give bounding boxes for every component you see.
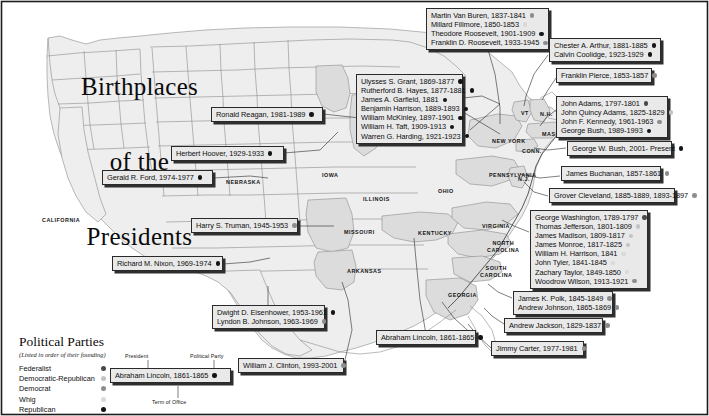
president-entry: Jimmy Carter, 1977-1981	[496, 344, 579, 353]
president-name-term: George Washington, 1789-1797	[535, 213, 638, 222]
party-dot-icon	[268, 151, 272, 155]
party-dot-icon	[621, 252, 625, 256]
party-dot-icon	[523, 22, 527, 26]
president-entry: Ulysses S. Grant, 1869-1877	[361, 77, 458, 86]
president-name-term: Benjamin Harrison, 1889-1893	[361, 104, 460, 113]
callout-california-nixon[interactable]: Richard M. Nixon, 1969-1974	[112, 256, 223, 271]
map-poster: .stline{fill:none;stroke:#8c8c8c;stroke-…	[0, 0, 709, 416]
president-entry: Calvin Coolidge, 1923-1929	[554, 50, 656, 59]
president-entry: Thomas Jefferson, 1801-1809	[535, 222, 643, 231]
title-line-1: Birthplaces	[52, 74, 227, 99]
party-dot-icon	[625, 270, 629, 274]
legend-subtitle: (Listed in order of their founding)	[19, 351, 106, 358]
callout-virginia[interactable]: George Washington, 1789-1797Thomas Jeffe…	[530, 210, 648, 289]
state-label-california: CALIFORNIA	[42, 217, 80, 224]
president-name-term: George Bush, 1989-1993	[561, 126, 643, 135]
party-dot-icon	[636, 224, 640, 228]
party-dot-icon	[605, 323, 609, 327]
state-label-nebraska: NEBRASKA	[226, 179, 261, 186]
president-name-term: William McKinley, 1897-1901	[361, 113, 454, 122]
callout-illinois-reagan[interactable]: Ronald Reagan, 1981-1989	[211, 107, 323, 122]
callout-kentucky-lincoln[interactable]: Abraham Lincoln, 1861-1865	[376, 330, 476, 345]
president-entry: George Washington, 1789-1797	[535, 213, 643, 222]
party-dot-icon	[669, 110, 673, 114]
president-entry: Herbert Hoover, 1929-1933	[176, 149, 279, 158]
key-sample-name: Abraham Lincoln, 1861-1865	[115, 371, 208, 380]
party-dot-icon	[644, 101, 648, 105]
president-name-term: James Buchanan, 1857-1861	[566, 169, 661, 178]
party-dot-icon	[458, 116, 462, 120]
president-name-term: John Quincy Adams, 1825-1829	[561, 108, 665, 117]
state-label-new-york: NEW YORK	[492, 138, 526, 145]
president-entry: Rutherford B. Hayes, 1877-1881	[361, 86, 458, 95]
callout-new-jersey[interactable]: Grover Cleveland, 1885-1889, 1893-1897	[549, 188, 675, 203]
callout-north-carolina[interactable]: James K. Polk, 1845-1849Andrew Johnson, …	[513, 291, 613, 315]
party-dot-icon	[331, 310, 335, 314]
party-dot-icon	[292, 223, 296, 227]
key-term-label: Term of Office	[152, 399, 186, 405]
president-entry: Ronald Reagan, 1981-1989	[216, 110, 318, 119]
president-name-term: Theodore Roosevelt, 1901-1909	[431, 29, 535, 38]
state-label-n-h: N.H.	[540, 111, 553, 118]
state-label-n-j: N.J.	[518, 176, 530, 183]
president-name-term: James A. Garfield, 1881	[361, 95, 439, 104]
president-entry: John Tyler, 1841-1845	[535, 258, 643, 267]
president-entry: William J. Clinton, 1993-2001	[243, 361, 339, 370]
president-name-term: George W. Bush, 2001- Present	[572, 144, 675, 153]
callout-nebraska-ford[interactable]: Gerald R. Ford, 1974-1977	[102, 170, 213, 185]
president-name-term: Zachary Taylor, 1849-1850	[535, 268, 621, 277]
party-dot-icon	[626, 243, 630, 247]
president-name-term: Ulysses S. Grant, 1869-1877	[361, 77, 454, 86]
party-dot-icon	[216, 261, 220, 265]
party-dot-icon	[212, 373, 216, 377]
president-entry: Dwight D. Eisenhower, 1953-1961	[217, 308, 320, 317]
president-entry: John Adams, 1797-1801	[561, 99, 663, 108]
president-entry: George Bush, 1989-1993	[561, 126, 663, 135]
legend-item-whig: Whig	[19, 395, 36, 404]
president-entry: Warren G. Harding, 1921-1923	[361, 132, 458, 141]
party-dot-icon	[607, 296, 611, 300]
president-entry: James Buchanan, 1857-1861	[566, 169, 656, 178]
president-name-term: Lyndon B. Johnson, 1963-1969	[217, 317, 318, 326]
president-name-term: William J. Clinton, 1993-2001	[243, 361, 337, 370]
president-name-term: John F. Kennedy, 1961-1963	[561, 117, 653, 126]
president-name-term: Woodrow Wilson, 1913-1921	[535, 277, 628, 286]
president-entry: William H. Harrison, 1841	[535, 249, 643, 258]
callout-missouri-truman[interactable]: Harry S. Truman, 1945-1953	[191, 218, 298, 233]
president-name-term: James Monroe, 1817-1825	[535, 240, 622, 249]
state-label-illinois: ILLINOIS	[363, 196, 390, 203]
callout-new-york[interactable]: Martin Van Buren, 1837-1841Millard Fillm…	[426, 8, 549, 50]
callout-iowa-hoover[interactable]: Herbert Hoover, 1929-1933	[171, 146, 284, 161]
party-dot-icon	[629, 234, 633, 238]
callout-massachusetts[interactable]: John Adams, 1797-1801John Quincy Adams, …	[556, 96, 668, 138]
callout-new-hampshire[interactable]: Franklin Pierce, 1853-1857	[556, 68, 652, 83]
legend-item-demrep: Democratic-Republican	[19, 374, 95, 383]
callout-south-carolina[interactable]: Andrew Jackson, 1829-1837	[504, 318, 603, 333]
legend-item-republican: Republican	[19, 405, 56, 414]
president-name-term: Herbert Hoover, 1929-1933	[176, 149, 264, 158]
party-dot-icon	[464, 107, 468, 111]
callout-texas[interactable]: Dwight D. Eisenhower, 1953-1961Lyndon B.…	[212, 305, 325, 329]
party-dot-icon	[657, 120, 661, 124]
callout-vermont[interactable]: Chester A. Arthur, 1881-1885Calvin Cooli…	[549, 38, 661, 62]
callout-arkansas-clinton[interactable]: William J. Clinton, 1993-2001	[238, 358, 344, 373]
legend-dot-whig-icon	[101, 397, 106, 402]
state-label-virginia: VIRGINIA	[482, 223, 510, 230]
callout-connecticut[interactable]: George W. Bush, 2001- Present	[567, 141, 672, 156]
president-name-term: Andrew Johnson, 1865-1869	[518, 303, 611, 312]
party-dot-icon	[647, 129, 651, 133]
legend-title: Political Parties	[19, 334, 104, 350]
callout-ohio[interactable]: Ulysses S. Grant, 1869-1877Rutherford B.…	[356, 74, 463, 144]
callout-georgia[interactable]: Jimmy Carter, 1977-1981	[491, 341, 584, 356]
state-label-georgia: GEORGIA	[448, 292, 477, 299]
president-name-term: Grover Cleveland, 1885-1889, 1893-1897	[554, 191, 688, 200]
key-sample-box: Abraham Lincoln, 1861-1865	[110, 368, 231, 383]
president-entry: James Monroe, 1817-1825	[535, 240, 643, 249]
president-entry: George W. Bush, 2001- Present	[572, 144, 667, 153]
president-entry: Abraham Lincoln, 1861-1865	[381, 333, 471, 342]
callout-pennsylvania[interactable]: James Buchanan, 1857-1861	[561, 166, 661, 181]
president-name-term: Abraham Lincoln, 1861-1865	[381, 333, 474, 342]
president-name-term: Franklin Pierce, 1853-1857	[561, 71, 648, 80]
state-label-ohio: OHIO	[438, 188, 454, 195]
party-dot-icon	[543, 41, 547, 45]
